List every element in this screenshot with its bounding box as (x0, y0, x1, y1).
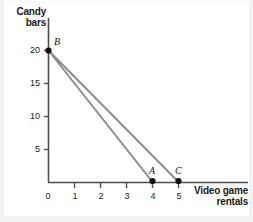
y-tick-label-5: 5 (18, 144, 40, 154)
y-tick-label-15: 15 (18, 78, 40, 88)
x-axis-title-line2: rentals (217, 196, 248, 207)
budget-line-b-a (49, 51, 153, 183)
y-axis-title-line2: bars (26, 17, 46, 28)
data-point-b (45, 47, 51, 53)
x-tick-label-4: 4 (146, 191, 160, 201)
x-tick-label-2: 2 (94, 191, 108, 201)
y-tick-label-10: 10 (18, 111, 40, 121)
data-point-a (149, 178, 155, 184)
point-label-c: C (175, 165, 182, 176)
point-label-b: B (54, 36, 60, 47)
budget-constraint-chart: Candybars Video gamerentals 20 15 10 5 0… (0, 0, 253, 222)
y-axis-title-line1: Candy (16, 6, 46, 17)
y-tick-label-20: 20 (18, 45, 40, 55)
y-axis-title: Candybars (6, 6, 46, 28)
data-point-c (175, 178, 181, 184)
x-tick-label-0: 0 (41, 191, 55, 201)
x-axis-title: Video gamerentals (186, 185, 248, 207)
x-tick-label-1: 1 (68, 191, 82, 201)
x-tick-label-3: 3 (120, 191, 134, 201)
point-label-a: A (149, 165, 155, 176)
x-axis-title-line1: Video game (194, 185, 248, 196)
x-tick-label-5: 5 (172, 191, 186, 201)
budget-line-b-c (49, 51, 179, 183)
